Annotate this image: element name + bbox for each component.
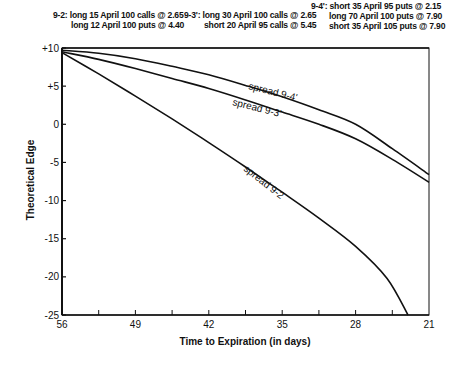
y-tick-label: -10 (45, 195, 60, 206)
x-axis-title: Time to Expiration (in days) (180, 336, 311, 347)
y-tick-label: +5 (48, 81, 60, 92)
chart-svg: +10+50-5-10-15-20-25 564942352821 spread… (0, 0, 456, 366)
x-tick-label: 35 (277, 319, 289, 330)
curve-label-spread-9-3p: spread 9-3' (232, 96, 283, 119)
x-tick-label: 56 (56, 319, 68, 330)
curve-label-spread-9-4p: spread 9-4' (248, 80, 299, 103)
curves (62, 50, 429, 315)
curve-spread-9-2 (62, 53, 408, 315)
x-tick-label: 49 (130, 319, 142, 330)
curve-spread-9-3p (62, 52, 429, 183)
y-axis-title: Theoretical Edge (25, 139, 36, 220)
curve-label-spread-9-2: spread 9-2 (242, 163, 287, 201)
curve-spread-9-4p (62, 50, 429, 174)
plot-frame (62, 48, 429, 315)
y-tick-label: +10 (42, 43, 59, 54)
x-tick-label: 42 (203, 319, 215, 330)
x-tick-label: 28 (350, 319, 362, 330)
y-tick-label: 0 (53, 119, 59, 130)
y-tick-label: -20 (45, 271, 60, 282)
x-tick-label: 21 (423, 319, 435, 330)
x-ticks: 564942352821 (56, 310, 435, 330)
y-tick-label: -5 (50, 157, 59, 168)
y-tick-label: -15 (45, 233, 60, 244)
